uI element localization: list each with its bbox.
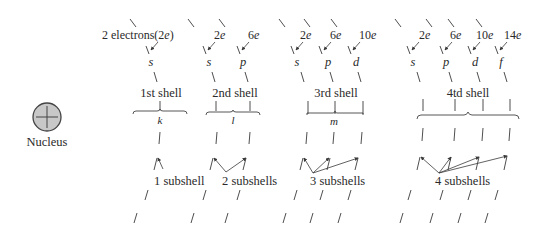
subshell-s: s bbox=[411, 55, 416, 69]
electron-label-d: 10e bbox=[476, 28, 494, 42]
electron-label-p: 6e bbox=[330, 28, 342, 42]
nucleus: Nucleus bbox=[27, 103, 68, 149]
subshell-s: s bbox=[207, 55, 212, 69]
shell-1: 2 electrons(2e) s 1st shell k 1 subshell bbox=[102, 28, 205, 223]
shell-2: 2e 6e s p 2nd shell l 2 subshells bbox=[203, 28, 277, 223]
subshell-p: p bbox=[324, 55, 331, 69]
shell-letter: k bbox=[158, 114, 164, 126]
shell-label: 1st shell bbox=[140, 86, 182, 100]
subshell-count-label: 2 subshells bbox=[222, 174, 277, 188]
shell-label: 2nd shell bbox=[212, 86, 258, 100]
electron-shell-diagram: Nucleus 2 electrons(2e) s 1st shell k 1 … bbox=[0, 0, 545, 242]
electron-label-p: 6e bbox=[248, 28, 260, 42]
subshell-count-label: 1 subshell bbox=[154, 174, 205, 188]
subshell-p: p bbox=[442, 55, 449, 69]
subshell-count-label: 4 subshells bbox=[435, 174, 490, 188]
subshell-f: f bbox=[499, 55, 504, 69]
nucleus-label: Nucleus bbox=[27, 135, 68, 149]
subshell-d: d bbox=[472, 55, 479, 69]
shell-label: 3rd shell bbox=[314, 86, 358, 100]
tick bbox=[146, 46, 149, 54]
electron-label-s: 2e bbox=[214, 28, 226, 42]
shell-3: 2e 6e 10e s p d 3rd shell m 3 subshells bbox=[283, 28, 377, 223]
electron-count-label: 2 electrons(2e) bbox=[102, 28, 174, 42]
subshell-d: d bbox=[353, 55, 360, 69]
electron-label-s: 2e bbox=[300, 28, 312, 42]
shell-letter: m bbox=[330, 115, 338, 127]
shell-label: 4td shell bbox=[447, 86, 490, 100]
subshell-count-label: 3 subshells bbox=[310, 174, 365, 188]
subshell-p: p bbox=[239, 55, 246, 69]
electron-label-s: 2e bbox=[419, 28, 431, 42]
electron-label-p: 6e bbox=[450, 28, 462, 42]
subshell-s: s bbox=[295, 55, 300, 69]
shell-4: 2e 6e 10e 14e s p d f 4td shell bbox=[400, 28, 522, 223]
shell-letter: l bbox=[231, 114, 234, 126]
electron-arrow bbox=[151, 42, 158, 50]
top-ticks bbox=[130, 19, 482, 27]
electron-label-f: 14e bbox=[504, 28, 522, 42]
shell-brace bbox=[417, 112, 519, 119]
electron-label-d: 10e bbox=[359, 28, 377, 42]
subshell-s: s bbox=[149, 55, 154, 69]
